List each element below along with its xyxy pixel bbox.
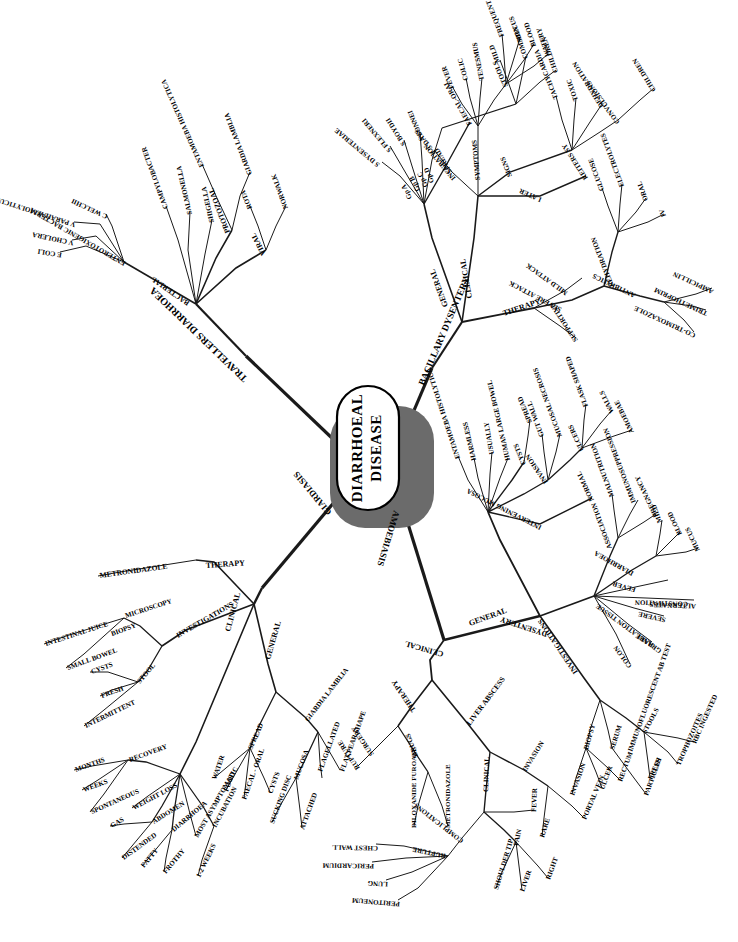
label-bd-tenesmus[interactable]: TENESMUS: [471, 42, 486, 81]
label-gi-metronidazole[interactable]: METRONIDAZOLE: [99, 562, 168, 580]
label-am-right[interactable]: RIGHT: [544, 856, 560, 881]
label-gi-fatty[interactable]: FATTY: [139, 847, 160, 870]
label-am-association[interactable]: ASSOCIATION: [590, 502, 614, 550]
label-am-clinical[interactable]: CLINICAL: [404, 639, 445, 659]
label-bd-iv[interactable]: IV: [658, 208, 668, 218]
center-node[interactable]: DIARRHOEAL DISEASE: [330, 386, 434, 528]
label-am-metronidazole[interactable]: METRONIDAZOLE: [444, 764, 452, 828]
label-bd-later[interactable]: LATER: [517, 186, 543, 203]
label-am-blood[interactable]: BLOOD: [666, 510, 684, 536]
label-bd-convulsions[interactable]: CONVULSIONS: [585, 79, 622, 125]
label-am-invasion-liver[interactable]: INVASION: [521, 740, 546, 773]
label-am-severe[interactable]: SEVERE: [637, 610, 666, 624]
label-salmonella[interactable]: SALMONELLA: [175, 165, 194, 215]
label-bd-children-2[interactable]: CHILDREN: [631, 57, 658, 93]
label-gi-recovery[interactable]: RECOVERY: [128, 743, 168, 764]
label-gi-giardia-lamblia[interactable]: GIARDIA LAMBLIA: [303, 666, 350, 723]
edges-travellers: [60, 164, 286, 356]
label-am-invasion-biopsy[interactable]: INVASION: [568, 762, 587, 797]
label-giardia-lamblia-td[interactable]: GIARDIA LAMBLIA: [223, 112, 254, 176]
label-gi-months[interactable]: MONTHS: [74, 756, 106, 774]
label-am-rare-liver[interactable]: RARE: [538, 817, 552, 839]
label-am-fever-liver[interactable]: FEVER: [530, 787, 539, 812]
label-gi-general[interactable]: GENERAL: [263, 620, 283, 661]
label-bd-antibiotics[interactable]: ANTIBIOTICS: [591, 272, 637, 300]
label-bd-glucose[interactable]: GLUCOSE: [587, 157, 606, 192]
label-am-invasion[interactable]: INVASION: [524, 453, 550, 486]
label-am-flask-shaped[interactable]: FLASK SHAPED: [564, 355, 590, 408]
label-bd-supportive[interactable]: SUPPORTIVE: [548, 301, 579, 343]
label-am-liver-abscess[interactable]: LIVER ABSCESS: [464, 675, 506, 727]
center-title-line1: DIARRHOEAL: [349, 394, 365, 502]
label-gi-attached[interactable]: ATTACHED: [298, 792, 319, 831]
label-am-granulation-tissue[interactable]: GRANULATION TISSUE: [594, 602, 663, 655]
label-bd-signs[interactable]: SIGNS: [499, 156, 514, 179]
label-bd-frequent[interactable]: FREQUENT: [484, 0, 506, 38]
center-title-line2: DISEASE: [368, 414, 384, 482]
label-gi-spread[interactable]: SPREAD: [247, 722, 266, 751]
label-v-parahaemolyticus[interactable]: V PARAHAEMOLYTICUS: [0, 195, 77, 228]
label-bd-colic[interactable]: COLIC: [456, 57, 470, 81]
label-am-serum[interactable]: SERUM: [608, 724, 624, 751]
label-gi-water[interactable]: WATER: [210, 753, 226, 780]
label-gi-mucosa[interactable]: MUCOSA: [292, 749, 310, 781]
label-am-therapy[interactable]: THERAPY: [389, 678, 417, 714]
label-am-diarrhoea[interactable]: DIARRHOEA: [593, 549, 635, 577]
label-norwalk[interactable]: NORWALK: [270, 172, 290, 210]
label-am-complications[interactable]: COMPLICATIONS: [413, 801, 465, 844]
label-am-peritoneum[interactable]: PERITONEUM: [351, 896, 400, 908]
label-am-walls[interactable]: WALLS: [598, 389, 616, 415]
label-gi-spontaneous[interactable]: SPONTANEOUS: [90, 787, 141, 815]
label-bd-ampicillin[interactable]: AMPICILLIN: [672, 270, 715, 296]
label-bd-symptoms[interactable]: SYMPTOMS: [470, 140, 481, 181]
label-gi-intermittent[interactable]: INTERMITTENT: [83, 698, 136, 730]
label-am-usually[interactable]: USUALLY: [482, 421, 496, 455]
label-c-welchii[interactable]: C WELCHII: [70, 197, 109, 221]
label-am-rectum[interactable]: RECTUM: [616, 750, 634, 782]
label-am-intervening-mucosa[interactable]: INTERVENING MUCOSA: [466, 487, 543, 532]
label-bd-mucus[interactable]: MUCUS: [508, 15, 524, 42]
label-am-diloxanide-furoate[interactable]: DILOXANIDE FUROATE: [410, 747, 418, 828]
label-am-chest-wall[interactable]: CHEST WALL: [332, 843, 378, 852]
label-am-normal[interactable]: NORMAL: [575, 470, 596, 503]
label-gi-stool[interactable]: STOOL: [135, 662, 157, 686]
label-am-mucus[interactable]: MUCUS: [684, 526, 702, 553]
branch-label-giardiasis[interactable]: GIARDIASIS: [291, 470, 333, 517]
label-am-biopsy[interactable]: BIOPSY: [582, 723, 597, 750]
label-am-lung[interactable]: LUNG: [367, 879, 388, 888]
label-e-coli[interactable]: E COLI: [37, 247, 63, 259]
label-gi-fresh[interactable]: FRESH: [100, 684, 125, 700]
trunk-travellers: [246, 356, 334, 440]
label-am-mild[interactable]: MILD: [650, 503, 664, 524]
label-bd-stools[interactable]: STOOLS: [491, 60, 510, 89]
label-gi-biopsy-2[interactable]: BIOPSY: [110, 621, 137, 637]
edges-giardiasis: [44, 560, 340, 876]
label-am-alternates[interactable]: ALTERNATES: [649, 600, 696, 610]
label-am-harmless[interactable]: HARMLESS: [461, 421, 478, 461]
label-am-clinical-liver[interactable]: CLINICAL: [482, 756, 491, 792]
label-gi-weeks[interactable]: WEEKS: [82, 778, 109, 794]
label-gi-intestinal-juice[interactable]: INTESTINAL JUICE: [44, 620, 109, 648]
label-viral[interactable]: VIRAL: [249, 232, 268, 258]
label-am-amoebae[interactable]: AMOEBAE: [613, 398, 636, 434]
mindmap-canvas: DIARRHOEAL DISEASE TRAVELLERS DIARRHOEA …: [0, 0, 738, 942]
label-am-pericardium[interactable]: PERICARDIUM: [322, 861, 374, 870]
label-campylobacter[interactable]: CAMPYLOBACTER: [140, 145, 170, 210]
label-am-shoulder-tip[interactable]: SHOULDER TIP: [492, 837, 515, 890]
label-bd-mild[interactable]: MILD: [488, 43, 502, 64]
label-bd-oral[interactable]: ORAL: [635, 180, 650, 202]
label-bd-toxic[interactable]: TOXIC: [565, 78, 580, 102]
label-am-investigations[interactable]: INVESTIGATIONS: [536, 617, 580, 676]
mindmap-page: DIARRHOEAL DISEASE TRAVELLERS DIARRHOEA …: [0, 0, 738, 942]
label-bd-electrolytes[interactable]: ELECTROLYTES: [599, 132, 626, 188]
label-gi-gas[interactable]: GAS: [109, 816, 126, 830]
label-entamoeba-histolytica-td[interactable]: ENTAMOEBA HISTOLYTICA: [160, 78, 206, 168]
label-gi-cysts[interactable]: CYSTS: [90, 661, 114, 676]
label-am-portal-vein[interactable]: PORTAL VEIN: [580, 774, 606, 821]
label-bd-general[interactable]: GENERAL: [428, 268, 450, 308]
label-gi-therapy[interactable]: THERAPY: [206, 558, 246, 570]
label-rota[interactable]: ROTA: [239, 189, 254, 210]
